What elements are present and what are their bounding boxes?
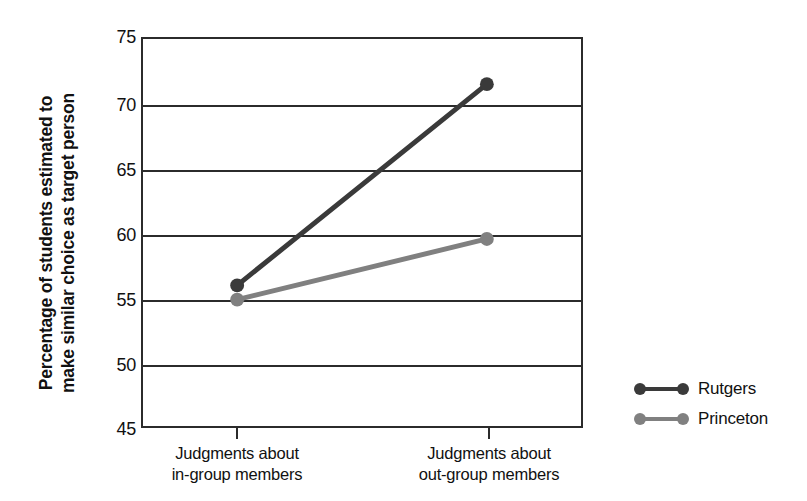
- x-axis-label-out-group: Judgments about out-group members: [369, 443, 609, 486]
- y-axis-title-line-2: make similar choice as target person: [57, 93, 79, 393]
- x-axis-label-out-group-line-2: out-group members: [369, 464, 609, 485]
- legend-marker-rutgers-left: [634, 383, 646, 395]
- chart-legend: Rutgers Princeton: [634, 374, 804, 434]
- series-line-rutgers: [237, 84, 487, 285]
- x-tick-mark-in-group: [236, 428, 238, 439]
- legend-label-rutgers: Rutgers: [698, 379, 756, 399]
- plot-area: [141, 37, 583, 428]
- legend-marker-rutgers-right: [677, 383, 689, 395]
- y-axis-title: Percentage of students estimated to make…: [26, 33, 88, 453]
- data-point-rutgers-0: [230, 278, 244, 292]
- x-axis-label-in-group-line-1: Judgments about: [117, 443, 357, 464]
- x-axis-label-out-group-line-1: Judgments about: [369, 443, 609, 464]
- y-axis-title-line-1: Percentage of students estimated to: [35, 96, 57, 390]
- legend-label-princeton: Princeton: [698, 409, 768, 429]
- y-tick-label-50: 50: [92, 356, 136, 374]
- y-tick-label-70: 70: [92, 96, 136, 114]
- y-tick-label-55: 55: [92, 291, 136, 309]
- series-plot: [143, 39, 581, 426]
- y-tick-label-45: 45: [92, 420, 136, 438]
- series-line-princeton: [237, 239, 487, 300]
- legend-item-princeton: Princeton: [634, 404, 804, 434]
- data-point-rutgers-1: [480, 77, 494, 91]
- y-tick-label-60: 60: [92, 226, 136, 244]
- legend-swatch-rutgers: [634, 381, 689, 397]
- legend-swatch-princeton: [634, 411, 689, 427]
- x-axis-label-in-group-line-2: in-group members: [117, 464, 357, 485]
- x-tick-mark-out-group: [488, 428, 490, 439]
- y-axis-tick-labels: 75 70 65 60 55 50 45: [92, 0, 136, 501]
- y-tick-label-65: 65: [92, 161, 136, 179]
- data-point-princeton-0: [230, 293, 244, 307]
- legend-marker-princeton-left: [634, 413, 646, 425]
- legend-marker-princeton-right: [677, 413, 689, 425]
- chart-figure: Percentage of students estimated to make…: [0, 0, 807, 501]
- x-axis-label-in-group: Judgments about in-group members: [117, 443, 357, 486]
- data-point-princeton-1: [480, 232, 494, 246]
- y-tick-label-75: 75: [92, 28, 136, 46]
- series-group: [230, 77, 494, 306]
- legend-item-rutgers: Rutgers: [634, 374, 804, 404]
